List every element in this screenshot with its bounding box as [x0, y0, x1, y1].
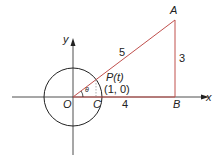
- point-P-label: P(t): [106, 71, 124, 83]
- x-axis-label: x: [205, 91, 212, 103]
- y-axis-arrow-icon: [71, 38, 76, 46]
- base-length-label: 4: [122, 98, 128, 110]
- point-C-label: C: [93, 98, 101, 110]
- hypotenuse-length-label: 5: [119, 46, 125, 58]
- point-P-coordinate: (1, 0): [104, 83, 130, 95]
- point-B-label: B: [173, 98, 180, 110]
- y-axis-label: y: [62, 33, 70, 45]
- angle-arc: [81, 91, 83, 97]
- point-O-label: O: [63, 98, 72, 110]
- unit-circle-triangle-diagram: x y O C B A P(t) (1, 0) θ 5 3 4: [0, 0, 217, 160]
- vertical-length-label: 3: [179, 52, 185, 64]
- point-A-label: A: [169, 4, 177, 16]
- angle-theta-label: θ: [85, 86, 89, 93]
